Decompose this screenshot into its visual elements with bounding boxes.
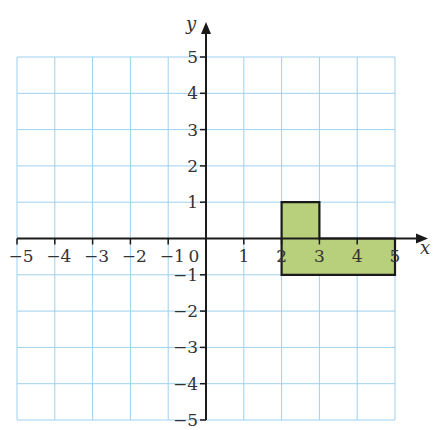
y-tick-label: 2 <box>187 156 198 176</box>
coordinate-grid-chart: −5−4−3−2−101234554321−1−2−3−4−5 x y <box>0 0 441 430</box>
x-tick-label: −2 <box>122 246 147 266</box>
x-tick-label: −1 <box>160 246 185 266</box>
x-tick-label: 1 <box>238 246 249 266</box>
y-tick-label: 3 <box>187 120 198 140</box>
x-axis-label: x <box>420 237 430 258</box>
y-tick-label: −2 <box>173 301 198 321</box>
y-tick-label: −1 <box>173 265 198 285</box>
y-tick-label: 4 <box>187 83 198 103</box>
y-tick-label: 1 <box>187 192 198 212</box>
x-tick-label: 2 <box>276 246 287 266</box>
x-tick-label: 0 <box>189 246 200 266</box>
y-axis-arrow-icon <box>201 22 211 34</box>
y-tick-label: −4 <box>173 374 198 394</box>
x-tick-label: 5 <box>390 246 401 266</box>
y-tick-label: −5 <box>173 410 198 430</box>
y-axis-label: y <box>185 13 197 34</box>
x-tick-label: 4 <box>352 246 363 266</box>
x-tick-label: −3 <box>84 246 109 266</box>
x-tick-label: −4 <box>46 246 71 266</box>
x-tick-label: 3 <box>314 246 325 266</box>
axes <box>17 22 428 420</box>
y-tick-label: 5 <box>187 47 198 67</box>
x-tick-label: −5 <box>8 246 33 266</box>
y-tick-label: −3 <box>173 337 198 357</box>
